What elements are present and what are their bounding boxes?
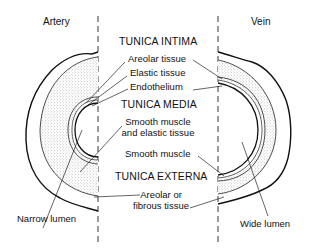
externa-label-line2: fibrous tissue: [122, 200, 200, 211]
artery-title: Artery: [43, 16, 70, 27]
intima-endothelium-label: Endothelium: [130, 81, 183, 92]
artery-cross-section: [26, 52, 98, 211]
vein-media-label: Smooth muscle: [125, 148, 190, 159]
artery-media-label-line1: Smooth muscle: [120, 116, 196, 127]
narrow-lumen-label: Narrow lumen: [17, 213, 76, 224]
wide-lumen-label: Wide lumen: [240, 218, 290, 229]
tunica-media-heading: TUNICA MEDIA: [121, 98, 197, 110]
externa-label-line1: Areolar or: [128, 189, 194, 200]
intima-areolar-label: Areolar tissue: [128, 53, 186, 64]
tunica-externa-heading: TUNICA EXTERNA: [115, 170, 207, 182]
artery-vein-diagram: Artery Vein TUNICA INTIMA Areolar tissue…: [0, 0, 312, 251]
vein-title: Vein: [251, 16, 270, 27]
intima-elastic-label: Elastic tissue: [130, 67, 185, 78]
tunica-intima-heading: TUNICA INTIMA: [119, 35, 197, 47]
vein-cross-section: [218, 52, 291, 204]
artery-media-label-line2: and elastic tissue: [116, 127, 200, 138]
